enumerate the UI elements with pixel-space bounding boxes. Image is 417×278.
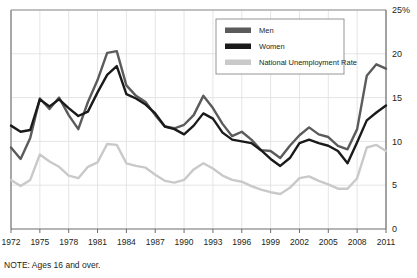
unemployment-line-chart-figure: 0510152025% 1972197519781981198419871990… [0, 0, 417, 278]
legend-label-men: Men [259, 26, 274, 35]
x-axis-tick-label: 1990 [175, 237, 194, 247]
x-axis-tick-label: 1999 [261, 237, 280, 247]
legend-swatch-national-unemployment-rate [225, 60, 251, 66]
legend-swatch-women [225, 44, 251, 50]
x-axis-ticks [11, 229, 386, 233]
y-axis-tick-label: 10 [392, 137, 402, 147]
legend-label-national-unemployment-rate: National Unemployment Rate [259, 58, 357, 67]
y-axis-tick-label: 5 [392, 180, 397, 190]
x-axis-tick-label: 1978 [59, 237, 78, 247]
y-axis-labels: 0510152025% [392, 5, 410, 234]
y-axis-tick-label: 25% [392, 5, 410, 15]
y-axis-tick-label: 0 [392, 224, 397, 234]
x-axis-tick-label: 1975 [30, 237, 49, 247]
legend-label-women: Women [259, 42, 285, 51]
x-axis-labels: 1972197519781981198419871990199319961999… [2, 237, 396, 247]
x-axis-tick-label: 1996 [232, 237, 251, 247]
legend-swatch-men [225, 28, 251, 34]
chart-note: NOTE: Ages 16 and over. [4, 260, 100, 270]
x-axis-tick-label: 1984 [117, 237, 136, 247]
x-axis-tick-label: 1981 [88, 237, 107, 247]
x-axis-tick-label: 1993 [203, 237, 222, 247]
x-axis-tick-label: 2011 [377, 237, 396, 247]
y-axis-tick-label: 20 [392, 49, 402, 59]
chart-canvas: 0510152025% 1972197519781981198419871990… [0, 0, 417, 278]
x-axis-tick-label: 2005 [319, 237, 338, 247]
x-axis-tick-label: 2002 [290, 237, 309, 247]
x-axis-tick-label: 1987 [146, 237, 165, 247]
chart-legend: MenWomenNational Unemployment Rate [216, 19, 357, 74]
x-axis-tick-label: 2008 [348, 237, 367, 247]
y-axis-tick-label: 15 [392, 93, 402, 103]
x-axis-tick-label: 1972 [2, 237, 21, 247]
